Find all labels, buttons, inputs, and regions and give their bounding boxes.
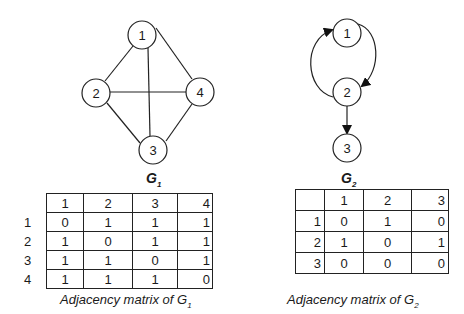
svg-text:1: 1: [138, 28, 145, 43]
graph1-node-2: 2: [82, 79, 110, 107]
matrix-row: 3 1 1 0 1: [24, 251, 213, 270]
graph2-subscript: 2: [352, 180, 356, 189]
matrix2-caption-sub: 2: [414, 301, 418, 310]
cell: 1: [178, 251, 213, 270]
cell: 1: [364, 211, 412, 232]
row-label: 3: [296, 253, 325, 274]
row-label: 4: [24, 270, 47, 289]
header-cell: 4: [178, 194, 213, 213]
cell: 1: [47, 232, 84, 251]
matrix1-caption: Adjacency matrix of G1: [60, 292, 192, 310]
cell: 0: [133, 251, 178, 270]
cell: 0: [325, 253, 364, 274]
cell: 1: [47, 270, 84, 289]
graph1-node-1: 1: [128, 21, 156, 49]
graph2-label: G2: [341, 170, 356, 189]
cell: 1: [133, 270, 178, 289]
cell: 1: [133, 232, 178, 251]
cell: 1: [84, 251, 133, 270]
row-label: 2: [24, 232, 47, 251]
edge-2-to-1: [311, 30, 333, 97]
edge-2-3: [107, 103, 140, 143]
matrix-row: 2 1 0 1 1: [24, 232, 213, 251]
graph2-node-3: 3: [333, 134, 361, 162]
adjacency-matrix-g1: 1 2 3 4 1 0 1 1 1 2 1 0 1 1 3 1 1 0 1 4 …: [24, 193, 213, 289]
cell: 1: [84, 270, 133, 289]
cell: 0: [325, 211, 364, 232]
header-cell: 3: [412, 190, 449, 211]
cell: 1: [412, 232, 449, 253]
matrix-row: 4 1 1 1 0: [24, 270, 213, 289]
edge-1-2: [105, 46, 133, 81]
svg-text:4: 4: [196, 85, 203, 100]
cell: 0: [364, 253, 412, 274]
matrix-row: 1 0 1 1 1: [24, 213, 213, 232]
header-cell: 1: [47, 194, 84, 213]
edge-1-4: [156, 28, 192, 79]
corner-cell: [296, 190, 325, 211]
svg-text:2: 2: [92, 86, 99, 101]
svg-text:3: 3: [149, 143, 156, 158]
svg-text:2: 2: [343, 85, 350, 100]
graph2-node-2: 2: [333, 78, 361, 106]
cell: 1: [178, 232, 213, 251]
adjacency-matrix-g2: 1 2 3 1 0 1 0 2 1 0 1 3 0 0 0: [295, 189, 449, 274]
graph1-name: G: [146, 170, 157, 186]
graph1-label: G1: [146, 170, 161, 189]
header-cell: 2: [364, 190, 412, 211]
cell: 0: [412, 253, 449, 274]
matrix1-caption-sub: 1: [187, 301, 191, 310]
edge-3-4: [166, 104, 192, 141]
header-cell: 1: [325, 190, 364, 211]
row-label: 3: [24, 251, 47, 270]
header-cell: 3: [133, 194, 178, 213]
matrix-row: 2 1 0 1: [296, 232, 449, 253]
cell: 1: [84, 213, 133, 232]
svg-text:1: 1: [343, 26, 350, 41]
row-label: 2: [296, 232, 325, 253]
cell: 1: [133, 213, 178, 232]
corner-cell: [24, 194, 47, 213]
header-cell: 2: [84, 194, 133, 213]
cell: 1: [47, 251, 84, 270]
matrix-row: 1 0 1 0: [296, 211, 449, 232]
cell: 1: [178, 213, 213, 232]
graph2-node-1: 1: [333, 19, 361, 47]
row-label: 1: [296, 211, 325, 232]
row-label: 1: [24, 213, 47, 232]
cell: 0: [47, 213, 84, 232]
graph1-node-4: 4: [186, 78, 214, 106]
cell: 1: [325, 232, 364, 253]
svg-text:3: 3: [343, 141, 350, 156]
matrix2-caption: Adjacency matrix of G2: [287, 292, 419, 310]
cell: 0: [178, 270, 213, 289]
cell: 0: [84, 232, 133, 251]
matrix-row: 3 0 0 0: [296, 253, 449, 274]
graph1-node-3: 3: [139, 136, 167, 164]
matrix2-caption-text: Adjacency matrix of G: [287, 292, 414, 307]
graph2-name: G: [341, 170, 352, 186]
graph1-subscript: 1: [157, 180, 161, 189]
matrix1-caption-text: Adjacency matrix of G: [60, 292, 187, 307]
cell: 0: [412, 211, 449, 232]
cell: 0: [364, 232, 412, 253]
